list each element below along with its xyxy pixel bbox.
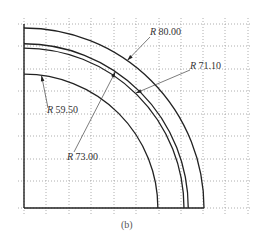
quarter-ring-drawing (0, 0, 262, 242)
dotted-grid (18, 18, 252, 214)
dim-label-r73-00: R 73.00 (67, 152, 98, 162)
dim-label-r80: R 80.00 (150, 27, 181, 37)
dim-label-r71-10: R 71.10 (190, 61, 221, 71)
leader-line (74, 72, 115, 152)
figure-caption: (b) (121, 219, 133, 230)
arc-r73 (24, 44, 188, 208)
dim-label-r59-50: R 59.50 (47, 105, 78, 115)
arc-r71-1 (24, 48, 184, 208)
dimension-leaders (41, 37, 190, 152)
